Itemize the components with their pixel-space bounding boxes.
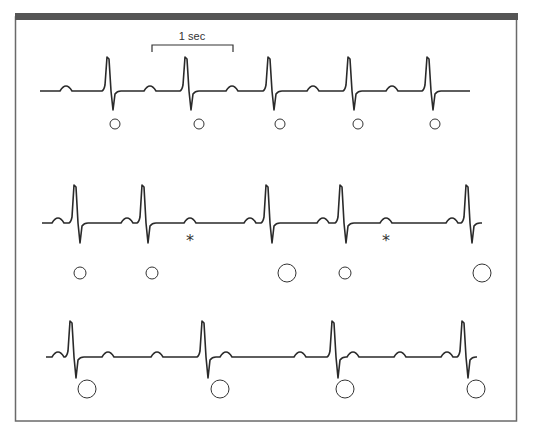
figure-top-bar — [15, 13, 518, 20]
ecg-figure: 1 sec ** — [0, 0, 533, 434]
figure-caption-cropped — [14, 424, 524, 434]
scale-bar-label: 1 sec — [179, 30, 206, 42]
asterisk-marker: * — [186, 231, 194, 250]
figure-background — [0, 0, 533, 434]
asterisk-marker: * — [382, 231, 390, 250]
